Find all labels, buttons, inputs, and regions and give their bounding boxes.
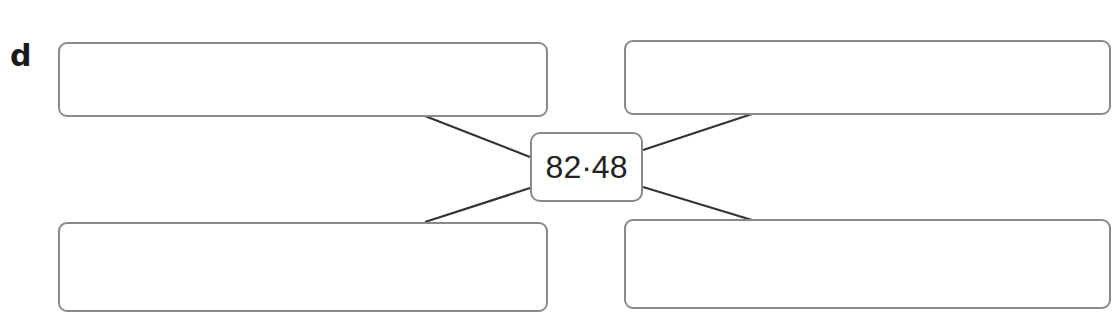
answer-box-bottom-left[interactable]: [58, 222, 548, 312]
connector-bottom-left: [425, 188, 530, 222]
connector-bottom-right: [643, 187, 752, 220]
answer-box-top-left[interactable]: [58, 42, 548, 117]
connector-top-right: [643, 114, 752, 150]
center-number-box: 82·48: [530, 132, 643, 202]
center-value: 82·48: [546, 149, 628, 186]
connector-top-left: [425, 116, 530, 157]
answer-box-top-right[interactable]: [624, 40, 1111, 115]
answer-box-bottom-right[interactable]: [624, 219, 1111, 309]
